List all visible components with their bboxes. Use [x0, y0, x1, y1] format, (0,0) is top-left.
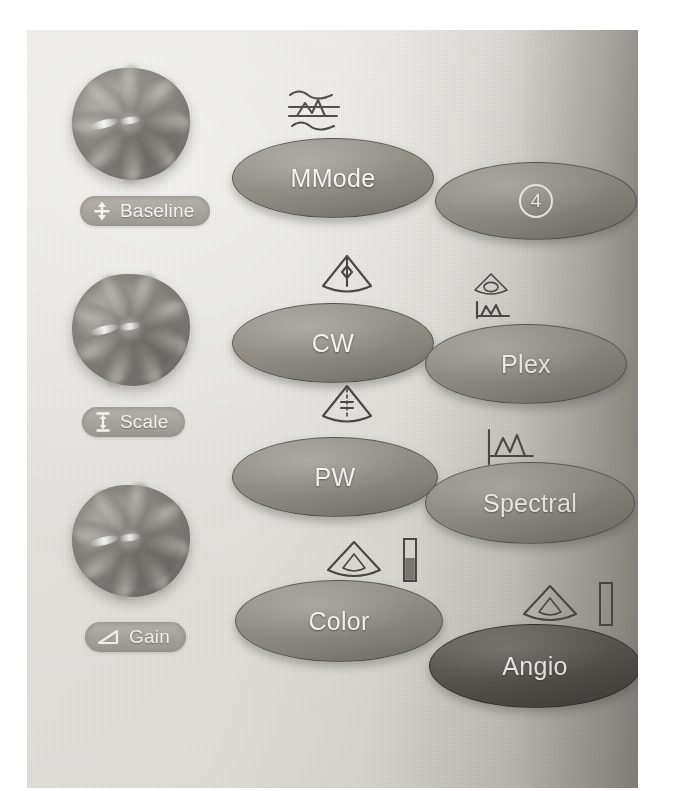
baseline-shift-icon — [92, 200, 112, 222]
color-sector-icon — [323, 538, 385, 586]
button-mmode[interactable]: MMode — [232, 138, 434, 218]
button-label-mmode: MMode — [291, 164, 376, 193]
screenshot-root: Baseline — [0, 0, 673, 791]
label-pill-baseline[interactable]: Baseline — [80, 196, 210, 226]
control-panel-photo: Baseline — [27, 30, 638, 788]
angio-bar-empty-icon — [595, 580, 617, 628]
rotary-knob-baseline[interactable] — [72, 68, 190, 180]
angio-sector-icon — [519, 582, 581, 630]
plex-sector-trace-icon — [467, 270, 515, 322]
button-plex[interactable]: Plex — [425, 324, 627, 404]
button-quad-4[interactable]: 4 — [435, 162, 637, 240]
button-color[interactable]: Color — [235, 580, 443, 662]
label-pill-scale[interactable]: Scale — [82, 407, 185, 437]
button-label-quad: 4 — [519, 184, 553, 218]
button-label-color: Color — [308, 607, 369, 636]
label-text-gain: Gain — [129, 626, 170, 648]
pw-sector-gate-icon — [317, 382, 377, 430]
cw-sector-line-icon — [317, 252, 377, 298]
button-angio[interactable]: Angio — [429, 624, 638, 708]
button-label-spectral: Spectral — [483, 489, 577, 518]
mmode-waveform-icon — [285, 86, 343, 132]
knob-shading — [81, 88, 180, 171]
label-text-scale: Scale — [120, 411, 169, 433]
button-label-cw: CW — [312, 329, 354, 358]
knob-shading — [81, 294, 180, 377]
label-pill-gain[interactable]: Gain — [85, 622, 186, 652]
rotary-knob-gain[interactable] — [72, 485, 190, 597]
knob-shading — [81, 505, 180, 588]
button-pw[interactable]: PW — [232, 437, 438, 517]
button-cw[interactable]: CW — [232, 303, 434, 383]
label-text-baseline: Baseline — [120, 200, 194, 222]
scale-ibeam-icon — [94, 411, 112, 433]
gain-wedge-icon — [97, 628, 121, 646]
color-bar-filled-icon — [399, 536, 421, 584]
button-label-plex: Plex — [501, 350, 551, 379]
rotary-knob-scale[interactable] — [72, 274, 190, 386]
button-label-pw: PW — [315, 463, 356, 492]
button-label-angio: Angio — [502, 652, 567, 681]
button-spectral[interactable]: Spectral — [425, 462, 635, 544]
